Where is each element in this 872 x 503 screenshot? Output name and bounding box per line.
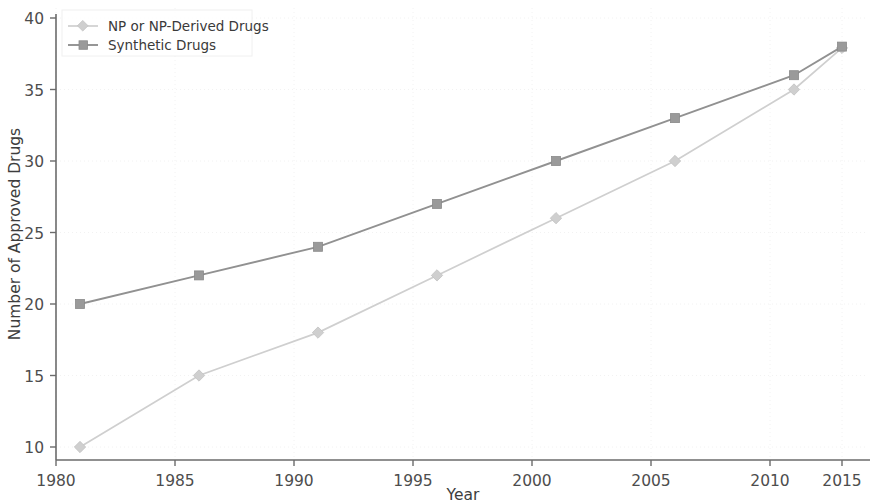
x-tick-label-2015: 2015: [822, 472, 861, 490]
y-tick-label-10: 10: [24, 439, 44, 457]
legend-label-synthetic: Synthetic Drugs: [108, 37, 216, 53]
data-point-synthetic-2016: [838, 42, 847, 51]
y-tick-label-15: 15: [24, 368, 44, 386]
x-tick-label-1990: 1990: [274, 472, 313, 490]
line-chart-canvas: 40 35 30 25 20 15 10 1980 1985 1990 1995…: [0, 0, 872, 503]
y-axis-ticks: [50, 18, 56, 447]
data-point-synthetic-1986: [195, 271, 204, 280]
data-point-synthetic-2006: [671, 114, 680, 123]
y-axis-title: Number of Approved Drugs: [6, 128, 24, 340]
plot-area-background: [56, 8, 866, 460]
chart-legend: NP or NP-Derived Drugs Synthetic Drugs: [62, 10, 269, 56]
x-tick-label-1985: 1985: [155, 472, 194, 490]
data-point-synthetic-1991: [314, 242, 323, 251]
x-axis-ticks: [56, 460, 842, 466]
data-point-synthetic-2011: [790, 71, 799, 80]
x-tick-label-2005: 2005: [631, 472, 670, 490]
legend-label-np: NP or NP-Derived Drugs: [108, 18, 269, 34]
y-tick-label-25: 25: [24, 225, 44, 243]
y-tick-label-40: 40: [24, 10, 44, 28]
x-axis-title: Year: [446, 486, 480, 503]
x-tick-label-2000: 2000: [512, 472, 551, 490]
data-point-synthetic-1981: [76, 300, 85, 309]
x-tick-label-2010: 2010: [750, 472, 789, 490]
data-point-synthetic-1996: [433, 199, 442, 208]
x-tick-label-1995: 1995: [393, 472, 432, 490]
y-tick-label-35: 35: [24, 82, 44, 100]
data-point-synthetic-2001: [552, 157, 561, 166]
legend-marker-square-icon: [79, 41, 88, 50]
y-tick-label-20: 20: [24, 296, 44, 314]
y-tick-label-30: 30: [24, 153, 44, 171]
chart-figure: 40 35 30 25 20 15 10 1980 1985 1990 1995…: [0, 0, 872, 503]
x-tick-label-1980: 1980: [36, 472, 75, 490]
